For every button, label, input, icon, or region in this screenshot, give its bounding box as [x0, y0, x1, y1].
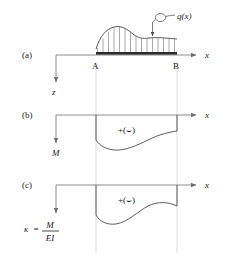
- figure-root: (a) x z: [0, 0, 225, 257]
- load-label: q(x): [177, 11, 192, 21]
- panel-b-sign-label: +(⌣): [118, 125, 135, 135]
- guide-lines: [96, 62, 177, 253]
- leader-loop: [155, 14, 165, 22]
- load-hatching: [98, 26, 175, 52]
- panel-b-tag: (b): [22, 110, 33, 120]
- moment-diagram-outline: [96, 115, 177, 150]
- panel-b-sign-text: +(⌣): [118, 125, 135, 135]
- formula-lhs: κ: [24, 224, 29, 234]
- curvature-diagram-outline: [96, 185, 177, 224]
- leader-line: [165, 15, 175, 16]
- leader-tail: [153, 20, 156, 23]
- panel-a: (a) x z: [22, 11, 209, 97]
- panel-c-sign-label: +(⌣): [118, 195, 135, 205]
- panel-a-tag: (a): [22, 50, 32, 60]
- panel-b-m-label: M: [51, 148, 60, 158]
- formula-equals: =: [33, 224, 39, 234]
- formula-numerator: M: [45, 220, 54, 230]
- panel-c-tag: (c): [22, 180, 32, 190]
- engineering-diagram: (a) x z: [0, 0, 225, 257]
- beam-segment: [96, 52, 177, 55]
- panel-c-x-label: x: [204, 180, 209, 190]
- load-curve: [96, 27, 177, 49]
- support-label-b: B: [173, 61, 179, 71]
- panel-b: (b) x M +(⌣): [22, 110, 209, 158]
- curvature-formula: κ = M EI: [24, 220, 59, 243]
- panel-a-x-label: x: [204, 50, 209, 60]
- panel-c: (c) x +(⌣) κ = M EI: [22, 180, 209, 243]
- panel-b-x-label: x: [204, 110, 209, 120]
- support-label-a: A: [92, 61, 99, 71]
- panel-a-z-label: z: [51, 87, 56, 97]
- panel-c-sign-text: +(⌣): [118, 195, 135, 205]
- load-leader: [153, 14, 176, 37]
- formula-denominator: EI: [45, 233, 55, 243]
